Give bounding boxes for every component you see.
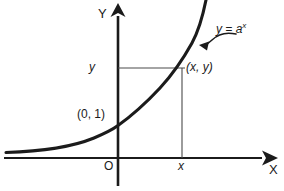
- y-axis-arrowhead: [111, 3, 126, 17]
- curve-equation-exponent: x: [242, 21, 246, 30]
- point-coordinates-label: (x, y): [186, 61, 213, 73]
- curve-equation-base: y = a: [216, 22, 242, 36]
- exponential-function-figure: Y X O y x (x, y) (0, 1) y = ax: [0, 0, 284, 191]
- curve-annotation-arrowhead: [199, 42, 209, 51]
- exponential-curve: [6, 0, 206, 153]
- origin-label: O: [104, 160, 113, 172]
- x-value-label: x: [178, 160, 184, 172]
- y-value-label: y: [89, 61, 95, 73]
- curve-equation-label: y = ax: [216, 23, 246, 35]
- y-axis-label: Y: [98, 7, 107, 20]
- x-axis-label: X: [269, 163, 278, 176]
- y-intercept-label: (0, 1): [77, 108, 105, 120]
